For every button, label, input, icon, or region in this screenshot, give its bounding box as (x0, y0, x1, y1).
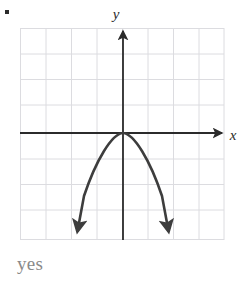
answer-label: yes (17, 252, 43, 276)
parabola-curve-right (123, 133, 169, 231)
y-axis-label: y (111, 6, 120, 22)
parabola-graph: y x (0, 0, 244, 248)
parabola-curve-left (78, 133, 124, 231)
figure-container: y x yes (0, 0, 244, 282)
x-axis-label: x (229, 127, 237, 143)
graph-panel: y x (0, 0, 244, 248)
